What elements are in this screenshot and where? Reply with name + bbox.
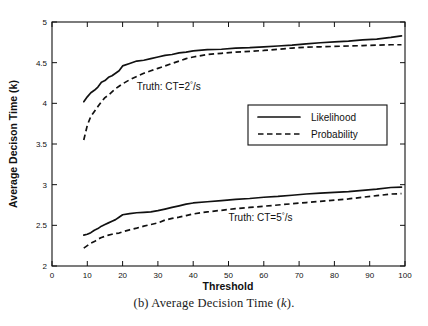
caption-suffix: ). — [287, 296, 295, 310]
y-axis-title: Average Decison Time (k) — [7, 80, 19, 208]
chart-annotation: Truth: CT=5°/s — [229, 211, 293, 224]
x-tick-label: 70 — [295, 271, 304, 280]
x-tick-label: 0 — [50, 271, 55, 280]
y-tick-label: 3.5 — [36, 140, 48, 149]
y-tick-label: 4.5 — [36, 59, 48, 68]
x-tick-label: 80 — [330, 271, 339, 280]
x-axis-ticks: 0102030405060708090100 — [50, 22, 412, 280]
x-tick-label: 40 — [189, 271, 198, 280]
x-tick-label: 60 — [259, 271, 268, 280]
y-tick-label: 2 — [43, 262, 48, 271]
legend-label-probability: Probability — [311, 129, 358, 140]
x-axis-title: Threshold — [203, 280, 254, 292]
chart-legend: Likelihood Probability — [248, 105, 387, 145]
x-tick-label: 100 — [398, 271, 412, 280]
line-chart: 22.533.544.55 0102030405060708090100 Tru… — [0, 0, 428, 296]
series-line — [84, 187, 402, 235]
y-tick-label: 3 — [43, 181, 48, 190]
chart-annotation: Truth: CT=2°/s — [137, 80, 201, 93]
legend-label-likelihood: Likelihood — [311, 112, 356, 123]
figure-average-decision-time: 22.533.544.55 0102030405060708090100 Tru… — [0, 0, 428, 326]
x-tick-label: 90 — [365, 271, 374, 280]
x-tick-label: 20 — [118, 271, 127, 280]
y-tick-label: 4 — [43, 99, 48, 108]
caption-prefix: (b) Average Decision Time ( — [134, 296, 282, 310]
figure-caption: (b) Average Decision Time (k). — [0, 296, 428, 311]
x-tick-label: 50 — [224, 271, 233, 280]
x-tick-label: 10 — [83, 271, 92, 280]
y-tick-label: 5 — [43, 18, 48, 27]
x-tick-label: 30 — [153, 271, 162, 280]
y-tick-label: 2.5 — [36, 221, 48, 230]
